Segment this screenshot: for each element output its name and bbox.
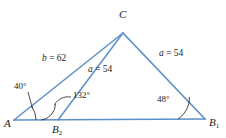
- vertex-label-C: C: [119, 9, 126, 22]
- angle-label-B1: 48°: [157, 95, 170, 104]
- side-label-b: b = 62: [42, 54, 66, 64]
- angle-label-B2: 132°: [73, 91, 90, 100]
- vertex-label-B1: B1: [209, 117, 219, 130]
- segment-C-B1: [123, 33, 205, 119]
- angle-arc-A: [32, 107, 37, 120]
- angle-leader-B2: [55, 97, 72, 105]
- triangle-drawing: [0, 0, 226, 138]
- side-label-a-second: a = 54: [88, 65, 112, 75]
- vertex-label-B2: B2: [52, 124, 62, 137]
- vertex-label-A: A: [4, 118, 11, 131]
- side-label-a-first: a = 54: [159, 49, 183, 59]
- geometry-figure: C A B1 B2 b = 62 a = 54 a = 54 40° 132° …: [0, 0, 226, 138]
- angle-leader-A: [28, 92, 33, 108]
- angle-arc-B2: [42, 104, 56, 120]
- angle-label-A: 40°: [14, 82, 27, 91]
